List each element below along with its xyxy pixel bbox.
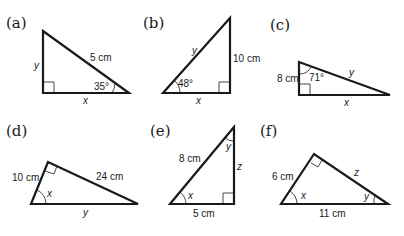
angle-arc-d <box>37 190 46 204</box>
vertical-label-c: 8 cm <box>277 73 299 84</box>
right-angle-mark-a <box>43 82 54 93</box>
horizontal-label-e: 5 cm <box>193 208 215 219</box>
vertical-label-a: y <box>33 60 40 71</box>
angle-top-label-e: y <box>225 141 232 152</box>
angle-label-c: 71° <box>309 72 324 83</box>
long-side-label-f: z <box>353 167 359 178</box>
angle-arc-left-f <box>290 191 297 204</box>
right-angle-mark-c <box>299 84 310 95</box>
base-label-d: y <box>82 207 89 218</box>
long-side-label-d: 24 cm <box>96 171 123 182</box>
triangle-f-shape <box>281 154 388 204</box>
triangle-a: (a) 5 cm y x 35° <box>6 14 129 106</box>
hypotenuse-label-c: y <box>348 67 355 78</box>
horizontal-label-b: x <box>195 95 202 106</box>
vertical-label-e: z <box>236 161 242 172</box>
angle-bottom-label-e: x <box>187 190 194 201</box>
triangle-b: (b) y 10 cm x 48° <box>143 14 260 106</box>
label-b: (b) <box>143 14 164 32</box>
triangle-e-shape <box>170 127 234 204</box>
triangles-svg: (a) 5 cm y x 35° (b) y 10 cm x 48° (c) 8… <box>0 0 404 236</box>
label-a: (a) <box>6 14 27 32</box>
angle-label-b: 48° <box>178 78 193 89</box>
hypotenuse-label-b: y <box>191 45 198 56</box>
vertical-label-b: 10 cm <box>233 53 260 64</box>
label-f: (f) <box>260 122 277 140</box>
horizontal-label-c: x <box>343 97 350 108</box>
triangle-f: (f) 6 cm z 11 cm x y <box>260 122 388 219</box>
angle-arc-right-f <box>374 196 375 204</box>
angle-left-label-f: x <box>300 190 307 201</box>
angle-arc-a <box>112 83 115 93</box>
label-c: (c) <box>270 16 290 34</box>
triangle-a-shape <box>43 31 129 93</box>
angle-arc-bottom-e <box>180 192 186 204</box>
label-d: (d) <box>6 122 27 140</box>
angle-right-label-f: y <box>363 191 370 202</box>
label-e: (e) <box>150 122 171 140</box>
right-angle-mark-f <box>311 160 322 167</box>
angle-label-d: x <box>46 188 53 199</box>
triangle-d: (d) 10 cm 24 cm y x <box>6 122 138 218</box>
angle-label-a: 35° <box>94 81 109 92</box>
right-angle-mark-e <box>223 193 234 204</box>
triangle-c: (c) 8 cm y x 71° <box>270 16 390 108</box>
triangle-e: (e) 8 cm z 5 cm x y <box>150 122 242 219</box>
triangles-figure: (a) 5 cm y x 35° (b) y 10 cm x 48° (c) 8… <box>0 0 404 236</box>
base-label-f: 11 cm <box>319 208 346 219</box>
right-angle-mark-b <box>219 82 230 93</box>
short-side-label-f: 6 cm <box>272 171 294 182</box>
hypotenuse-label-a: 5 cm <box>90 52 112 63</box>
short-side-label-d: 10 cm <box>12 172 39 183</box>
horizontal-label-a: x <box>82 95 89 106</box>
hypotenuse-label-e: 8 cm <box>179 153 201 164</box>
